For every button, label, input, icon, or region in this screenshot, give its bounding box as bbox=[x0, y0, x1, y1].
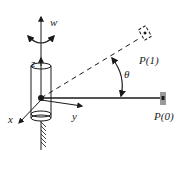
label-y: y bbox=[71, 110, 77, 122]
ground-support bbox=[41, 118, 46, 150]
label-x: x bbox=[7, 113, 13, 125]
y-axis bbox=[41, 100, 82, 106]
label-z: z bbox=[30, 57, 36, 69]
label-p1: P(1) bbox=[138, 54, 159, 67]
robot-arm-diagram: w z x y θ P(1) P(0) bbox=[0, 0, 184, 172]
pivot-point bbox=[38, 95, 44, 101]
target-p0 bbox=[160, 92, 166, 105]
label-p0: P(0) bbox=[153, 110, 174, 123]
theta-arc bbox=[112, 58, 122, 96]
label-theta: θ bbox=[124, 68, 130, 80]
target-p1 bbox=[139, 26, 152, 40]
label-w: w bbox=[50, 16, 58, 28]
